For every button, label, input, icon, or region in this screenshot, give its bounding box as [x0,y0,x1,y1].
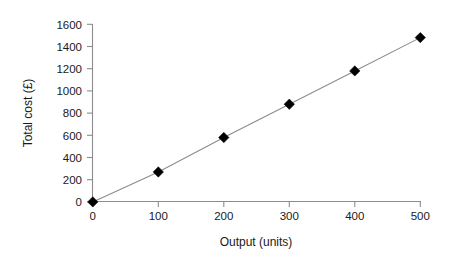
x-tick-label-200: 200 [214,210,233,222]
y-tick-label-1600: 1600 [56,19,82,31]
y-tick-label-200: 200 [63,174,82,186]
y-tick-label-800: 800 [63,107,82,119]
y-tick-label-1400: 1400 [56,41,82,53]
x-tick-label-300: 300 [280,210,299,222]
y-tick-label-1000: 1000 [56,85,82,97]
x-tick-label-100: 100 [149,210,168,222]
x-tick-label-0: 0 [90,210,96,222]
total-cost-line-chart: Total cost (£) Output (units) 1600 1400 … [0,0,450,260]
x-tick-label-500: 500 [411,210,430,222]
x-tick-label-400: 400 [345,210,364,222]
chart-page: Total cost (£) Output (units) 1600 1400 … [0,0,450,260]
x-axis-title: Output (units) [220,235,293,249]
y-tick-label-0: 0 [76,196,82,208]
y-tick-label-600: 600 [63,130,82,142]
y-tick-label-1200: 1200 [56,63,82,75]
y-tick-label-400: 400 [63,152,82,164]
y-axis-title: Total cost (£) [21,79,35,148]
